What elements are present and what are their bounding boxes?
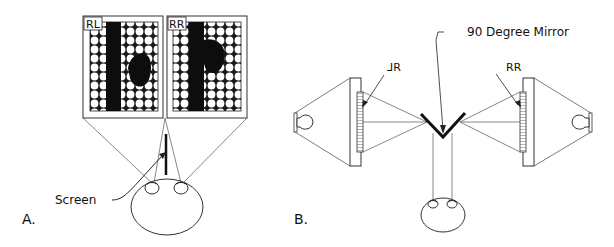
- rl-label: RL: [86, 18, 101, 31]
- left-eye-image-rl: RL: [83, 16, 163, 118]
- viewer-head-a: [131, 179, 203, 235]
- mirror-label: 90 Degree Mirror: [467, 25, 569, 39]
- panel-a-label: A.: [22, 211, 36, 227]
- viewer-head-b: [421, 198, 465, 232]
- panel-b-label: B.: [294, 211, 308, 227]
- stereo-viewing-diagram: RL RR Screen: [0, 0, 614, 247]
- left-display-label: ⅃R: [387, 61, 401, 74]
- right-display-label: RR: [506, 61, 522, 74]
- rr-label: RR: [169, 18, 185, 31]
- left-projector: [294, 78, 363, 166]
- right-projector: [520, 78, 592, 166]
- panel-a: RL RR Screen: [22, 16, 247, 235]
- right-beam: [460, 92, 520, 152]
- panel-b: 90 Degree Mirror ⅃R RR B.: [294, 25, 592, 232]
- left-beam: [363, 92, 427, 152]
- right-eye-image-rr: RR: [167, 16, 247, 118]
- screen-label: Screen: [55, 193, 96, 207]
